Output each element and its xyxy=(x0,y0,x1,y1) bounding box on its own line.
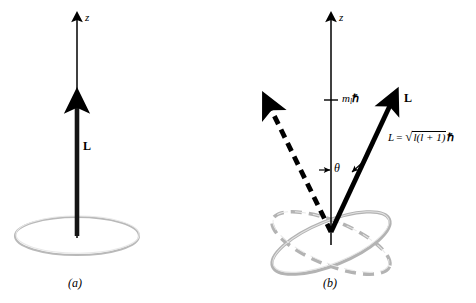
panel-caption-b: (b) xyxy=(323,277,337,289)
panel-b-graphics xyxy=(264,16,397,287)
z-projection-label: mlℏ xyxy=(342,93,359,106)
formula-equals: = xyxy=(394,131,404,143)
z-projection-label-hbar: ℏ xyxy=(352,92,359,104)
z-projection-label-m: m xyxy=(342,92,350,104)
angular-momentum-vector-label: L xyxy=(83,140,91,152)
formula-hbar: ℏ xyxy=(446,131,454,143)
formula-radicand: l(l + 1) xyxy=(412,131,446,143)
radical-sign-icon: √ xyxy=(405,130,412,143)
z-axis-label: z xyxy=(85,12,89,23)
figure-canvas xyxy=(0,0,476,303)
magnitude-formula: L=√l(l + 1)ℏ xyxy=(388,130,454,143)
z-axis-label: z xyxy=(339,12,343,23)
angle-label: θ xyxy=(334,162,340,174)
angular-momentum-vector-label: L xyxy=(404,92,412,104)
formula-radical-group: √l(l + 1) xyxy=(404,130,446,143)
panel-a-graphics xyxy=(15,16,139,255)
panel-caption-a: (a) xyxy=(68,277,82,289)
angular-momentum-figure: z L (a) z mlℏ L θ L=√l(l + 1)ℏ (b) xyxy=(0,0,476,303)
